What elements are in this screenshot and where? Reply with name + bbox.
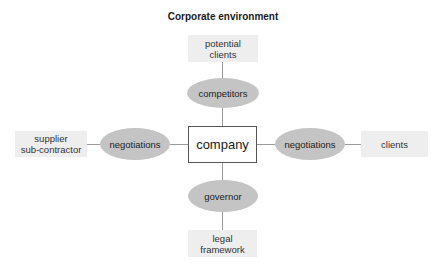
supplier-line2: sub-contractor [21,144,82,155]
connector-top-inner [222,108,223,126]
connector-right-inner [257,144,275,145]
negotiations-right-node: negotiations [275,128,345,160]
connector-left-outer [87,144,100,145]
supplier-line1: supplier [34,133,67,144]
negotiations-left-node: negotiations [100,128,170,160]
clients-node: clients [361,131,428,157]
potential-clients-line2: clients [210,49,237,60]
legal-framework-line1: legal [212,233,232,244]
legal-framework-node: legal framework [188,230,257,257]
competitors-node: competitors [187,78,259,108]
potential-clients-line1: potential [205,38,241,49]
company-node: company [188,126,257,163]
connector-right-outer [345,144,361,145]
supplier-node: supplier sub-contractor [15,131,87,157]
diagram-title: Corporate environment [0,11,446,22]
legal-framework-line2: framework [200,244,244,255]
connector-bottom-outer [222,212,223,230]
potential-clients-node: potential clients [188,35,258,62]
connector-left-inner [170,144,188,145]
governor-node: governor [188,180,258,212]
connector-bottom-inner [222,163,223,180]
connector-top-outer [222,62,223,78]
